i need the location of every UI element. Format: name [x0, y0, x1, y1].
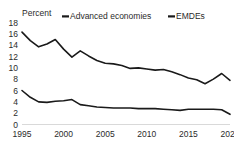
legend-label: Advanced economies [70, 11, 151, 21]
x-axis-tick-label: 2015 [179, 129, 198, 139]
x-axis-tick-label: 2020 [221, 129, 234, 139]
line-chart: Percent Advanced economiesEMDEs 02468101… [0, 0, 234, 145]
chart-legend: Advanced economiesEMDEs [62, 11, 205, 21]
y-axis-unit-label: Percent [22, 8, 52, 18]
y-axis-tick-label: 6 [13, 86, 18, 96]
x-axis-tick-label: 2005 [96, 129, 115, 139]
y-axis-tick-label: 16 [9, 29, 19, 39]
y-axis-tick-label: 2 [13, 108, 18, 118]
x-axis-tick-label: 2010 [137, 129, 156, 139]
y-axis-tick-label: 14 [9, 40, 19, 50]
y-axis-tick-label: 4 [13, 97, 18, 107]
legend-label: EMDEs [176, 11, 205, 21]
x-axis-tick-label: 1995 [13, 129, 32, 139]
chart-background [0, 0, 234, 145]
y-axis-tick-label: 12 [9, 52, 19, 62]
x-axis-tick-label: 2000 [54, 129, 73, 139]
chart-container: Percent Advanced economiesEMDEs 02468101… [0, 0, 234, 145]
y-axis-tick-label: 8 [13, 74, 18, 84]
legend-item-advanced-economies: Advanced economies [62, 11, 151, 21]
y-axis-tick-label: 10 [9, 63, 19, 73]
y-axis-tick-label: 18 [9, 18, 19, 28]
